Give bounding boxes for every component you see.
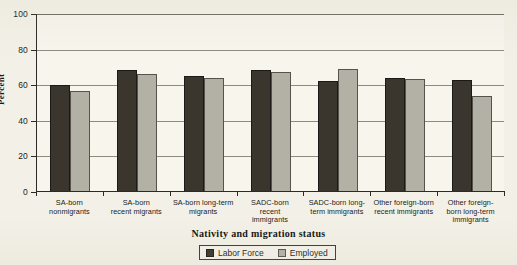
- legend-item-employed: Employed: [278, 248, 328, 258]
- chart-legend: Labor Force Employed: [199, 245, 336, 260]
- bar-group: [184, 14, 224, 192]
- bar-group: [318, 14, 358, 192]
- x-tick-label-line: immigrants: [237, 216, 304, 225]
- bar-group: [385, 14, 425, 192]
- bar-group: [50, 14, 90, 192]
- x-tick-mark: [170, 191, 171, 196]
- y-tick-mark-20: [31, 156, 36, 157]
- x-tick-label-line: migrants: [170, 208, 237, 217]
- x-tick-label: Other foreign-bornrecent immigrants: [370, 199, 437, 216]
- y-tick-mark-100: [31, 14, 36, 15]
- x-tick-label: Other foreign-born long-termimmigrants: [437, 199, 504, 225]
- x-tick-label-line: recent immigrants: [370, 208, 437, 217]
- plot-area: [36, 14, 504, 192]
- bar-labor-force: [117, 70, 137, 192]
- x-tick-mark: [437, 191, 438, 196]
- bar-labor-force: [385, 78, 405, 192]
- x-tick-label-line: nonmigrants: [36, 208, 103, 217]
- legend-item-labor-force: Labor Force: [206, 248, 264, 258]
- y-tick-label-40: 40: [0, 116, 28, 126]
- legend-swatch-employed: [278, 249, 286, 257]
- x-tick-mark: [303, 191, 304, 196]
- x-axis-line: [36, 191, 504, 192]
- bar-group: [251, 14, 291, 192]
- bar-employed: [472, 96, 492, 192]
- x-tick-label: SA-bornnonmigrants: [36, 199, 103, 216]
- bar-labor-force: [184, 76, 204, 192]
- x-tick-mark: [36, 191, 37, 196]
- bar-employed: [70, 91, 90, 192]
- x-tick-label-line: recent migrants: [103, 208, 170, 217]
- bar-labor-force: [318, 81, 338, 192]
- x-tick-label: SADC-bornrecentimmigrants: [237, 199, 304, 225]
- bar-chart-figure: Percent 020406080100 SA-bornnonmigrantsS…: [0, 0, 517, 265]
- bar-employed: [338, 69, 358, 192]
- bar-labor-force: [50, 85, 70, 192]
- y-tick-mark-40: [31, 121, 36, 122]
- y-tick-mark-80: [31, 50, 36, 51]
- x-tick-label: SA-bornrecent migrants: [103, 199, 170, 216]
- y-tick-label-0: 0: [0, 187, 28, 197]
- bar-labor-force: [452, 80, 472, 192]
- bar-employed: [204, 78, 224, 192]
- bar-group: [117, 14, 157, 192]
- legend-label-employed: Employed: [290, 248, 328, 258]
- x-tick-label: SADC-born long-term immigrants: [303, 199, 370, 216]
- x-tick-mark: [504, 191, 505, 196]
- x-tick-label-line: immigrants: [437, 216, 504, 225]
- y-tick-mark-60: [31, 85, 36, 86]
- legend-swatch-labor-force: [206, 249, 214, 257]
- legend-label-labor-force: Labor Force: [218, 248, 264, 258]
- y-tick-label-20: 20: [0, 151, 28, 161]
- bar-labor-force: [251, 70, 271, 192]
- x-tick-mark: [370, 191, 371, 196]
- y-tick-label-80: 80: [0, 45, 28, 55]
- x-axis-title: Nativity and migration status: [0, 228, 517, 239]
- x-tick-mark: [103, 191, 104, 196]
- y-tick-label-60: 60: [0, 80, 28, 90]
- bar-group: [452, 14, 492, 192]
- bar-employed: [405, 79, 425, 192]
- bar-employed: [137, 74, 157, 192]
- x-tick-label-line: term immigrants: [303, 208, 370, 217]
- bar-employed: [271, 72, 291, 192]
- y-tick-label-100: 100: [0, 9, 28, 19]
- x-tick-mark: [237, 191, 238, 196]
- x-tick-label: SA-born long-termmigrants: [170, 199, 237, 216]
